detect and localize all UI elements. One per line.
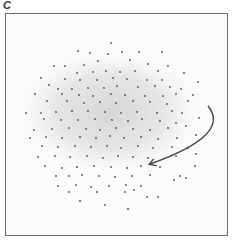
data-point — [40, 77, 42, 79]
data-point — [85, 128, 87, 130]
data-point — [60, 119, 62, 121]
data-point — [114, 176, 116, 178]
scatter-plot — [0, 0, 235, 243]
data-point — [110, 93, 112, 95]
data-point — [94, 118, 96, 120]
data-point — [147, 157, 149, 159]
data-point — [48, 84, 50, 86]
data-point — [33, 129, 35, 131]
data-point — [87, 110, 89, 112]
data-point — [89, 52, 91, 54]
data-point — [161, 51, 163, 53]
data-point — [102, 157, 104, 159]
data-point — [138, 51, 140, 53]
data-point — [167, 65, 169, 67]
data-point — [156, 112, 158, 114]
data-point — [117, 155, 119, 157]
data-point — [104, 204, 106, 206]
data-point — [92, 95, 94, 97]
data-point — [185, 125, 187, 127]
data-point — [43, 118, 45, 120]
data-point — [71, 88, 73, 90]
data-point — [137, 145, 139, 147]
data-point — [92, 71, 94, 73]
data-point — [34, 93, 36, 95]
data-point — [112, 77, 114, 79]
data-point — [140, 136, 142, 138]
data-point — [61, 167, 63, 169]
data-point — [183, 72, 185, 74]
data-point — [141, 118, 143, 120]
data-point — [194, 165, 196, 167]
data-point — [93, 165, 95, 167]
data-point — [103, 87, 105, 89]
data-point — [125, 184, 127, 186]
data-point — [79, 79, 81, 81]
data-point — [137, 86, 139, 88]
data-point — [54, 155, 56, 157]
data-point — [57, 146, 59, 148]
data-point — [149, 101, 151, 103]
data-point — [74, 145, 76, 147]
data-point — [68, 175, 70, 177]
data-point — [71, 110, 73, 112]
data-point — [157, 196, 159, 198]
data-point — [106, 145, 108, 147]
data-point — [187, 100, 189, 102]
data-point — [109, 135, 111, 137]
data-point — [134, 70, 136, 72]
data-point — [53, 65, 55, 67]
data-point — [161, 79, 163, 81]
data-point — [57, 185, 59, 187]
data-point — [64, 78, 66, 80]
data-point — [159, 120, 161, 122]
data-point — [77, 119, 79, 121]
data-point — [45, 136, 47, 138]
data-point — [157, 138, 159, 140]
data-point — [116, 85, 118, 87]
data-point — [185, 177, 187, 179]
data-point — [120, 112, 122, 114]
data-point — [76, 166, 78, 168]
data-point — [90, 186, 92, 188]
data-point — [162, 95, 164, 97]
data-point — [171, 146, 173, 148]
data-point — [95, 137, 97, 139]
data-point — [197, 81, 199, 83]
data-point — [111, 119, 113, 121]
data-point — [108, 185, 110, 187]
data-point — [77, 50, 79, 52]
data-point — [180, 88, 182, 90]
data-point — [25, 112, 27, 114]
data-point — [166, 103, 168, 105]
data-point — [46, 100, 48, 102]
data-point — [159, 166, 161, 168]
data-point — [44, 165, 46, 167]
data-point — [167, 127, 169, 129]
data-point — [175, 155, 177, 157]
data-point — [140, 185, 142, 187]
data-point — [68, 191, 70, 193]
data-point — [149, 129, 151, 131]
data-point — [99, 101, 101, 103]
data-point — [132, 156, 134, 158]
data-point — [69, 156, 71, 158]
data-point — [146, 196, 148, 198]
data-point — [115, 102, 117, 104]
data-point — [79, 200, 81, 202]
data-point — [78, 94, 80, 96]
data-point — [83, 64, 85, 66]
data-point — [136, 111, 138, 113]
data-point — [140, 165, 142, 167]
data-point — [105, 70, 107, 72]
data-point — [154, 85, 156, 87]
data-point — [107, 53, 109, 55]
data-point — [169, 86, 171, 88]
data-point — [110, 42, 112, 44]
data-point — [175, 122, 177, 124]
data-point — [195, 134, 197, 136]
data-point — [144, 95, 146, 97]
data-point — [64, 65, 66, 67]
data-point — [55, 111, 57, 113]
data-point — [192, 94, 194, 96]
